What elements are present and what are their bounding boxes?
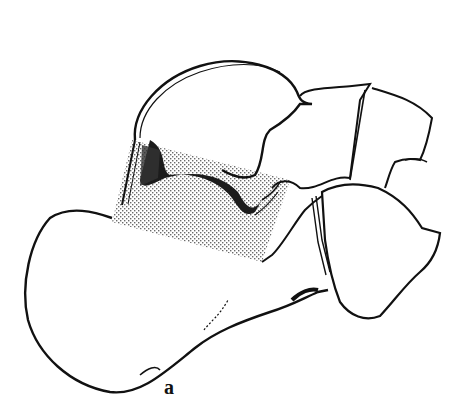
- cuboid: [322, 184, 440, 318]
- anatomical-drawing: [0, 0, 463, 415]
- shaded-section: [112, 140, 290, 262]
- cuneiform: [372, 88, 432, 188]
- panel-label: a: [164, 376, 174, 399]
- bone-illustration: [0, 0, 463, 415]
- navicular: [272, 84, 370, 188]
